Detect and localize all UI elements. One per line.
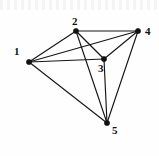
graph-edge-1-3 [29,59,104,62]
graph-edge-3-5 [104,59,107,123]
graph-canvas [0,0,159,156]
graph-vertex-1 [26,59,31,64]
vertex-label-2: 2 [72,16,78,27]
vertex-label-1: 1 [14,46,20,57]
graph-vertex-5 [104,120,109,125]
graph-vertex-2 [73,28,78,33]
graph-edge-1-5 [29,62,107,123]
graph-edge-4-5 [107,31,138,123]
vertex-label-5: 5 [112,125,118,136]
graph-figure: 1 2 3 4 5 [0,0,159,156]
edge-layer [29,31,138,123]
vertex-label-4: 4 [145,26,151,37]
vertex-label-3: 3 [98,63,104,74]
graph-vertex-4 [135,28,140,33]
graph-edge-1-2 [29,31,76,62]
graph-edge-1-4 [29,31,138,62]
graph-vertex-3 [101,56,106,61]
